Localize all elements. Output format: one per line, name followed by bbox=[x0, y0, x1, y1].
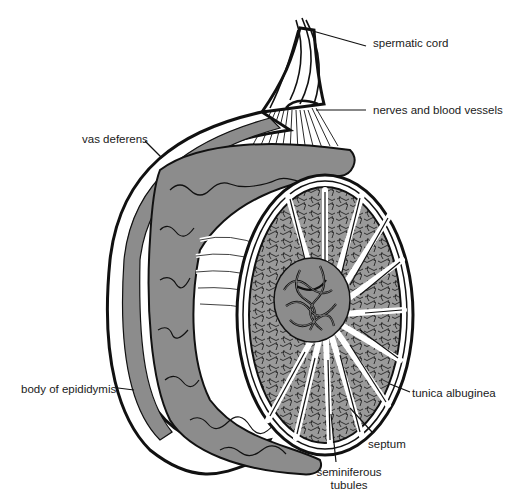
label-tunica-albuginea: tunica albuginea bbox=[412, 387, 496, 400]
rete-testis bbox=[274, 258, 350, 342]
label-spermatic-cord: spermatic cord bbox=[373, 37, 448, 50]
label-seminiferous-line1: seminiferous bbox=[310, 466, 388, 479]
label-body-of-epididymis: body of epididymis bbox=[21, 383, 116, 396]
label-vas-deferens: vas deferens bbox=[82, 133, 148, 146]
label-seminiferous-tubules: seminiferous tubules bbox=[310, 466, 388, 492]
label-nerves-and-blood-vessels: nerves and blood vessels bbox=[373, 104, 503, 117]
label-tubules-line2: tubules bbox=[310, 479, 388, 492]
label-septum: septum bbox=[368, 438, 406, 451]
testis-diagram bbox=[0, 0, 516, 504]
